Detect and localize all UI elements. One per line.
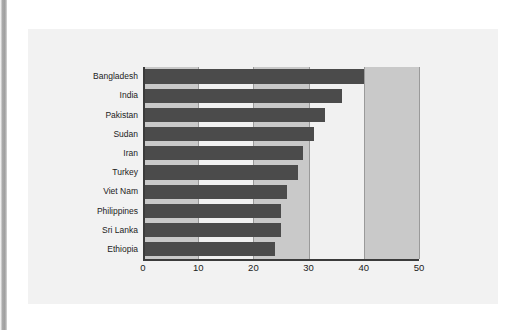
y-axis-label: Viet Nam <box>103 187 138 196</box>
bar <box>143 127 314 141</box>
y-axis-label: Iran <box>123 149 138 158</box>
bar-row <box>143 165 419 179</box>
bar <box>143 165 298 179</box>
y-axis-label: Ethiopia <box>107 245 138 254</box>
bar <box>143 108 325 122</box>
y-axis-label: Philippines <box>97 207 138 216</box>
bar <box>143 204 281 218</box>
bar <box>143 146 303 160</box>
x-axis-tick-label: 50 <box>414 263 425 273</box>
page-gutter-artifact <box>0 0 7 330</box>
bar-row <box>143 127 419 141</box>
bar-row <box>143 242 419 256</box>
bar-row <box>143 89 419 103</box>
y-axis-category-labels: BangladeshIndiaPakistanSudanIranTurkeyVi… <box>28 67 138 259</box>
bar-row <box>143 108 419 122</box>
figure-panel: BangladeshIndiaPakistanSudanIranTurkeyVi… <box>28 29 498 304</box>
bar <box>143 185 287 199</box>
x-axis-tick-label: 0 <box>140 263 145 273</box>
bar <box>143 242 275 256</box>
y-axis-label: India <box>120 91 138 100</box>
x-axis-tick-label: 30 <box>303 263 314 273</box>
x-axis-line <box>143 259 419 261</box>
y-axis-label: Pakistan <box>105 111 138 120</box>
bar <box>143 223 281 237</box>
plot-area <box>143 67 419 259</box>
bar-row <box>143 69 419 83</box>
y-axis-label: Sri Lanka <box>102 226 138 235</box>
x-axis-tick-label: 20 <box>248 263 259 273</box>
bar-row <box>143 185 419 199</box>
y-axis-line <box>143 67 145 259</box>
y-axis-label: Sudan <box>113 130 138 139</box>
bar <box>143 69 364 83</box>
x-axis-tick-label: 10 <box>193 263 204 273</box>
gridline <box>419 67 420 259</box>
bar-row <box>143 204 419 218</box>
y-axis-label: Bangladesh <box>93 72 138 81</box>
bar <box>143 89 342 103</box>
bar-row <box>143 146 419 160</box>
bar-row <box>143 223 419 237</box>
x-axis-tick-labels: 01020304050 <box>143 263 419 279</box>
y-axis-label: Turkey <box>112 168 138 177</box>
x-axis-tick-label: 40 <box>359 263 370 273</box>
